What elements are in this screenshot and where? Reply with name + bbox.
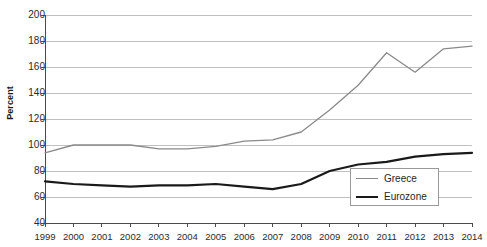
- x-axis-tick-label: 2014: [455, 231, 487, 242]
- legend-line-eurozone-icon: [356, 196, 378, 198]
- legend-label-eurozone: Eurozone: [384, 191, 427, 202]
- x-axis-ticks: [45, 223, 472, 227]
- legend: Greece Eurozone: [350, 168, 439, 206]
- legend-line-greece-icon: [356, 178, 378, 179]
- legend-item-greece: Greece: [356, 170, 417, 187]
- legend-item-eurozone: Eurozone: [356, 188, 427, 205]
- legend-label-greece: Greece: [384, 173, 417, 184]
- series-line-greece: [45, 46, 472, 153]
